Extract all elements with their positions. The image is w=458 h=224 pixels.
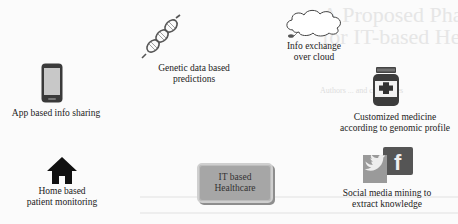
medicine-label-line-1: Customized medicine: [335, 112, 455, 123]
center-it-healthcare-box: IT based Healthcare: [197, 163, 273, 203]
genetic-label-line-2: predictions: [156, 74, 232, 85]
cloud-label-line-1: Info exchange: [284, 41, 344, 52]
app-label: App based info sharing: [6, 108, 106, 119]
center-label-line-2: Healthcare: [214, 183, 255, 194]
social-label-line-2: extract knowledge: [332, 199, 442, 210]
medicine-label: Customized medicine according to genomic…: [335, 112, 455, 134]
background-text-line: [140, 212, 458, 214]
smartphone-icon: [41, 63, 63, 107]
medicine-bottle-icon: [372, 67, 400, 111]
twitter-facebook-icon: f: [363, 147, 415, 189]
house-icon: [46, 156, 78, 188]
social-label-line-1: Social media mining to: [332, 188, 442, 199]
svg-text:f: f: [394, 150, 402, 175]
cloud-label: Info exchange over cloud: [284, 41, 344, 63]
center-label-line-1: IT based: [219, 172, 252, 183]
genetic-label-line-1: Genetic data based: [156, 63, 232, 74]
home-label: Home based patient monitoring: [14, 186, 110, 208]
dna-icon: [140, 14, 182, 64]
medicine-label-line-2: according to genomic profile: [335, 123, 455, 134]
cloud-label-line-2: over cloud: [284, 52, 344, 63]
home-label-line-2: patient monitoring: [14, 197, 110, 208]
cloud-icon: [283, 8, 345, 44]
social-label: Social media mining to extract knowledge: [332, 188, 442, 210]
home-label-line-1: Home based: [14, 186, 110, 197]
genetic-label: Genetic data based predictions: [156, 63, 232, 85]
